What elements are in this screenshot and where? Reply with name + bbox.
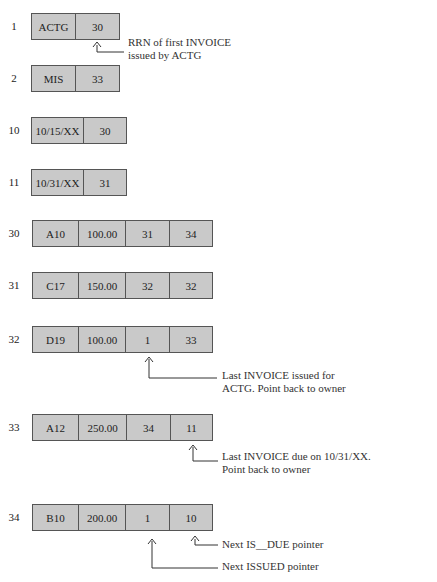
arrow-up-icon <box>189 445 218 461</box>
pointer-arrows <box>0 0 437 582</box>
arrow-up-icon <box>148 539 218 568</box>
arrow-up-icon <box>145 357 217 378</box>
arrow-up-icon <box>191 536 218 545</box>
arrow-up-icon <box>93 42 124 52</box>
